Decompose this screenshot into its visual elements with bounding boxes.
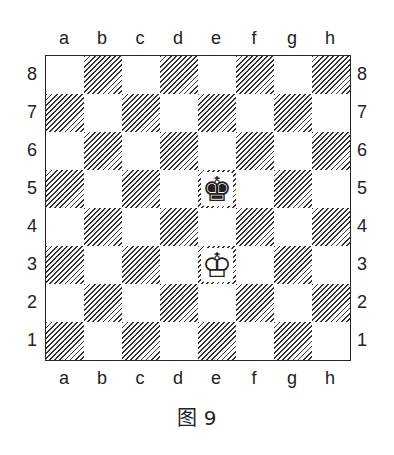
square-f6 — [236, 132, 274, 170]
rank-label-6: 6 — [352, 140, 372, 161]
rank-label-3: 3 — [22, 254, 42, 275]
square-a8 — [46, 56, 84, 94]
square-f3 — [236, 246, 274, 284]
square-d5 — [160, 170, 198, 208]
file-label-f: f — [235, 368, 273, 389]
square-e1 — [198, 322, 236, 360]
square-e2 — [198, 284, 236, 322]
square-g1 — [274, 322, 312, 360]
square-c6 — [122, 132, 160, 170]
rank-label-8: 8 — [22, 64, 42, 85]
square-e3: ♔ — [198, 246, 236, 284]
square-b6 — [84, 132, 122, 170]
square-c8 — [122, 56, 160, 94]
square-h2 — [312, 284, 350, 322]
square-h8 — [312, 56, 350, 94]
file-label-g: g — [273, 28, 311, 49]
square-d8 — [160, 56, 198, 94]
file-label-b: b — [83, 368, 121, 389]
chess-board: ♚♔ — [45, 55, 351, 361]
square-f5 — [236, 170, 274, 208]
file-label-d: d — [159, 28, 197, 49]
file-label-c: c — [121, 28, 159, 49]
square-a6 — [46, 132, 84, 170]
rank-label-4: 4 — [352, 216, 372, 237]
square-b4 — [84, 208, 122, 246]
rank-label-2: 2 — [22, 292, 42, 313]
square-g7 — [274, 94, 312, 132]
file-label-h: h — [311, 368, 349, 389]
rank-label-8: 8 — [352, 64, 372, 85]
square-c4 — [122, 208, 160, 246]
square-c1 — [122, 322, 160, 360]
square-f8 — [236, 56, 274, 94]
file-label-e: e — [197, 368, 235, 389]
square-h6 — [312, 132, 350, 170]
square-c7 — [122, 94, 160, 132]
figure-caption: 图 9 — [0, 402, 394, 431]
rank-label-1: 1 — [352, 330, 372, 351]
square-a4 — [46, 208, 84, 246]
file-label-e: e — [197, 28, 235, 49]
rank-label-5: 5 — [22, 178, 42, 199]
square-e5: ♚ — [198, 170, 236, 208]
square-c2 — [122, 284, 160, 322]
square-g4 — [274, 208, 312, 246]
square-g2 — [274, 284, 312, 322]
rank-label-3: 3 — [352, 254, 372, 275]
square-d1 — [160, 322, 198, 360]
square-c3 — [122, 246, 160, 284]
square-f4 — [236, 208, 274, 246]
rank-label-1: 1 — [22, 330, 42, 351]
file-label-b: b — [83, 28, 121, 49]
square-e7 — [198, 94, 236, 132]
file-label-d: d — [159, 368, 197, 389]
square-a3 — [46, 246, 84, 284]
file-label-c: c — [121, 368, 159, 389]
square-b5 — [84, 170, 122, 208]
square-d4 — [160, 208, 198, 246]
square-e4 — [198, 208, 236, 246]
black-king-icon: ♚ — [201, 172, 233, 206]
file-label-a: a — [45, 368, 83, 389]
rank-label-5: 5 — [352, 178, 372, 199]
rank-label-6: 6 — [22, 140, 42, 161]
file-label-f: f — [235, 28, 273, 49]
square-h3 — [312, 246, 350, 284]
file-label-g: g — [273, 368, 311, 389]
white-king-icon: ♔ — [201, 248, 233, 282]
square-b8 — [84, 56, 122, 94]
square-a5 — [46, 170, 84, 208]
square-b3 — [84, 246, 122, 284]
square-h7 — [312, 94, 350, 132]
square-d7 — [160, 94, 198, 132]
rank-label-7: 7 — [22, 102, 42, 123]
square-f7 — [236, 94, 274, 132]
square-b2 — [84, 284, 122, 322]
square-a1 — [46, 322, 84, 360]
square-h4 — [312, 208, 350, 246]
square-b7 — [84, 94, 122, 132]
rank-label-7: 7 — [352, 102, 372, 123]
square-b1 — [84, 322, 122, 360]
square-e6 — [198, 132, 236, 170]
file-label-h: h — [311, 28, 349, 49]
square-d3 — [160, 246, 198, 284]
rank-label-4: 4 — [22, 216, 42, 237]
square-c5 — [122, 170, 160, 208]
square-d6 — [160, 132, 198, 170]
square-g6 — [274, 132, 312, 170]
file-label-a: a — [45, 28, 83, 49]
rank-label-2: 2 — [352, 292, 372, 313]
square-d2 — [160, 284, 198, 322]
square-a2 — [46, 284, 84, 322]
square-e8 — [198, 56, 236, 94]
square-g5 — [274, 170, 312, 208]
square-h5 — [312, 170, 350, 208]
square-g3 — [274, 246, 312, 284]
square-f1 — [236, 322, 274, 360]
square-f2 — [236, 284, 274, 322]
square-h1 — [312, 322, 350, 360]
square-a7 — [46, 94, 84, 132]
square-g8 — [274, 56, 312, 94]
